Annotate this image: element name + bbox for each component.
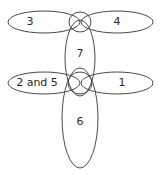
- region-label-r2and5: 2 and 5: [16, 76, 58, 89]
- region-label-r1: 1: [119, 76, 126, 89]
- region-label-r4: 4: [114, 15, 121, 28]
- region-label-r7: 7: [77, 47, 84, 60]
- region-label-r6: 6: [77, 115, 84, 128]
- region-label-r3: 3: [27, 15, 34, 28]
- overlapping-ellipses-diagram: 3472 and 516: [0, 0, 161, 179]
